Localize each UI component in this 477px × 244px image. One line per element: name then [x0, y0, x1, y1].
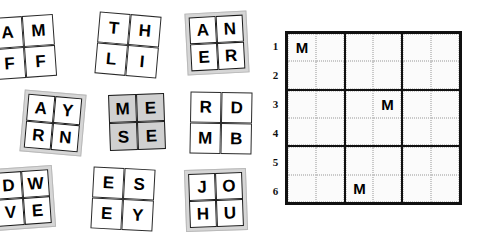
tile-cell[interactable]: T	[97, 11, 131, 45]
tile-cell[interactable]: E	[136, 93, 165, 122]
grid-cell-r3c3[interactable]	[346, 91, 374, 118]
grid-cell-r5c3[interactable]	[346, 147, 374, 174]
tile-cell[interactable]: L	[94, 42, 128, 76]
row-label-2: 2	[268, 60, 283, 89]
tile-cell[interactable]: H	[189, 200, 217, 228]
tile-cell[interactable]: J	[188, 173, 216, 201]
tile-cell[interactable]: F	[0, 47, 26, 80]
grid-cell-r6c3[interactable]: M	[346, 175, 374, 202]
grid-cell-r6c2[interactable]	[316, 175, 344, 202]
grid-block-9	[402, 146, 460, 203]
grid-cell-r3c1[interactable]	[288, 91, 316, 118]
grid-cell-r2c3[interactable]	[346, 61, 374, 88]
tile-cell[interactable]: I	[125, 45, 159, 79]
tile-cell[interactable]: S	[123, 168, 156, 201]
grid-cell-r4c3[interactable]	[346, 118, 374, 145]
tile-cell[interactable]: R	[24, 121, 53, 150]
grid-cell-r5c4[interactable]	[373, 147, 401, 174]
grid-cell-r6c6[interactable]	[431, 175, 459, 202]
tile-cell[interactable]: D	[221, 92, 253, 124]
grid-cell-r4c6[interactable]	[431, 118, 459, 145]
tile-cell[interactable]: E	[137, 121, 166, 150]
tile-cell[interactable]: E	[190, 43, 218, 71]
grid-cell-r2c1[interactable]	[288, 61, 316, 88]
grid-block-6	[402, 90, 460, 147]
tile-cell[interactable]: O	[215, 172, 243, 200]
grid-cell-r3c4[interactable]: M	[373, 91, 401, 118]
grid-cell-r2c6[interactable]	[431, 61, 459, 88]
grid-cell-r5c2[interactable]	[316, 147, 344, 174]
tile-me-se[interactable]: MESE	[105, 90, 169, 154]
tile-cell[interactable]: M	[22, 14, 55, 47]
tile-cell[interactable]: F	[24, 45, 57, 78]
grid-cell-r1c6[interactable]	[431, 34, 459, 61]
grid-cell-r4c4[interactable]	[373, 118, 401, 145]
tile-cell[interactable]: Y	[53, 96, 82, 125]
row-label-5: 5	[268, 147, 283, 176]
grid-cell-r6c4[interactable]	[373, 175, 401, 202]
grid-cell-r4c5[interactable]	[403, 118, 431, 145]
row-label-3: 3	[268, 89, 283, 118]
grid-cell-r1c2[interactable]	[316, 34, 344, 61]
tile-cell[interactable]: A	[26, 94, 55, 123]
grid-block-3	[402, 33, 460, 90]
letter-tiles-area: AMFFTHLIANERAYRNMESERDMBDWVEESEYJOHU	[0, 0, 265, 244]
grid-row-labels: 123456	[268, 31, 283, 205]
grid-cell-r3c5[interactable]	[403, 91, 431, 118]
tile-cell[interactable]: M	[108, 94, 137, 123]
tile-cell[interactable]: S	[109, 122, 138, 151]
tile-cell[interactable]: W	[21, 169, 50, 198]
grid-cell-r6c5[interactable]	[403, 175, 431, 202]
puzzle-canvas: AMFFTHLIANERAYRNMESERDMBDWVEESEYJOHU 123…	[0, 0, 477, 244]
grid-cell-r1c5[interactable]	[403, 34, 431, 61]
grid-cell-r3c2[interactable]	[316, 91, 344, 118]
grid-cell-r1c1[interactable]: M	[288, 34, 316, 61]
tile-cell[interactable]: M	[189, 122, 221, 154]
grid-block-2	[345, 33, 403, 90]
tile-jo-hu[interactable]: JOHU	[184, 168, 248, 232]
tile-an-er[interactable]: ANER	[184, 10, 249, 75]
grid-cell-r1c4[interactable]	[373, 34, 401, 61]
sudoku-grid[interactable]: MMM	[285, 31, 462, 205]
row-label-6: 6	[268, 176, 283, 205]
grid-cell-r2c4[interactable]	[373, 61, 401, 88]
tile-cell[interactable]: D	[0, 171, 23, 200]
grid-block-5: M	[345, 90, 403, 147]
tile-dw-ve[interactable]: DWVE	[0, 165, 56, 231]
grid-cell-r5c6[interactable]	[431, 147, 459, 174]
tile-am-ff[interactable]: AMFF	[0, 14, 57, 80]
grid-cell-r1c3[interactable]	[346, 34, 374, 61]
tile-cell[interactable]: E	[92, 166, 125, 199]
tile-cell[interactable]: R	[190, 91, 222, 123]
tile-es-ey[interactable]: ESEY	[90, 166, 155, 231]
tile-ay-rn[interactable]: AYRN	[19, 89, 86, 156]
grid-cell-r2c5[interactable]	[403, 61, 431, 88]
tile-cell[interactable]: Y	[121, 199, 154, 232]
tile-cell[interactable]: H	[128, 14, 162, 48]
tile-th-li[interactable]: THLI	[94, 11, 161, 78]
tile-cell[interactable]: U	[216, 199, 244, 227]
tile-rd-mb[interactable]: RDMB	[189, 91, 252, 154]
row-label-4: 4	[268, 118, 283, 147]
grid-block-4	[287, 90, 345, 147]
grid-cell-r5c1[interactable]	[288, 147, 316, 174]
tile-cell[interactable]: E	[23, 196, 52, 225]
row-label-1: 1	[268, 31, 283, 60]
tile-cell[interactable]: E	[90, 197, 123, 230]
tile-cell[interactable]: B	[220, 123, 252, 155]
grid-cell-r5c5[interactable]	[403, 147, 431, 174]
grid-block-8: M	[345, 146, 403, 203]
grid-cell-r6c1[interactable]	[288, 175, 316, 202]
grid-block-7	[287, 146, 345, 203]
tile-cell[interactable]: A	[0, 16, 24, 49]
tile-cell[interactable]: N	[51, 123, 80, 152]
tile-cell[interactable]: N	[216, 15, 244, 43]
sudoku-grid-wrapper: MMM	[285, 31, 462, 205]
tile-cell[interactable]: A	[189, 16, 217, 44]
grid-cell-r4c1[interactable]	[288, 118, 316, 145]
grid-cell-r2c2[interactable]	[316, 61, 344, 88]
grid-cell-r3c6[interactable]	[431, 91, 459, 118]
grid-cell-r4c2[interactable]	[316, 118, 344, 145]
tile-cell[interactable]: R	[217, 42, 245, 70]
tile-cell[interactable]: V	[0, 198, 25, 227]
